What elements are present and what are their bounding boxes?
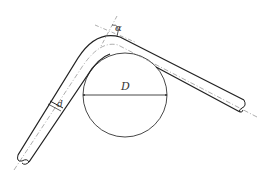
pipe-bend-diagram: α D d	[0, 0, 265, 184]
diagram-svg: α D d	[0, 0, 265, 184]
pipe-centerline	[14, 44, 257, 170]
diameter-end-left	[83, 94, 85, 96]
diameter-former-label: D	[120, 80, 130, 93]
diameter-pipe-label: d	[57, 99, 63, 109]
diameter-end-right	[165, 94, 167, 96]
angle-label: α	[115, 22, 122, 33]
pipe-break-left	[18, 155, 30, 164]
